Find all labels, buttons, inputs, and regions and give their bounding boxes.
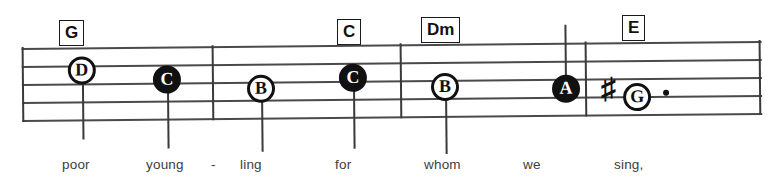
staff-line-3 [22, 77, 762, 86]
notehead-b-2: B [431, 73, 459, 101]
notehead-a-label: A [559, 79, 572, 97]
lyric-syllable-we: we [523, 157, 541, 172]
chord-symbol-dm: Dm [421, 17, 460, 43]
notehead-b-1-label: B [255, 79, 267, 97]
notehead-c-2: C [339, 64, 367, 92]
staff-start-barline [22, 47, 25, 122]
staff-line-2 [22, 59, 762, 68]
music-notation-sheet: G C Dm E D C B C [0, 0, 782, 183]
barline-1 [212, 45, 215, 120]
barline-3 [585, 42, 588, 117]
lyric-syllable-whom: whom [424, 157, 461, 172]
notehead-b-2-label: B [439, 77, 451, 95]
notehead-g-label: G [630, 87, 644, 105]
staff-line-5 [22, 113, 762, 122]
notehead-c-1: C [153, 65, 181, 93]
notehead-g: G [623, 83, 651, 111]
lyric-hyphen: - [211, 157, 216, 172]
notehead-a: A [552, 75, 580, 103]
augmentation-dot-icon [663, 90, 669, 96]
staff-end-barline [759, 40, 762, 115]
lyric-syllable-for: for [335, 157, 351, 172]
lyric-syllable-ling: ling [240, 157, 262, 172]
notehead-b-1: B [247, 75, 275, 103]
chord-symbol-c: C [337, 19, 361, 45]
lyric-syllable-sing: sing, [614, 157, 644, 172]
notehead-c-2-label: C [346, 68, 359, 86]
notehead-d-label: D [75, 60, 88, 78]
chord-symbol-g: G [59, 20, 84, 46]
barline-2 [400, 43, 403, 118]
chord-symbol-e: E [622, 15, 645, 41]
notehead-d: D [68, 56, 96, 84]
lyric-syllable-young: young [146, 157, 184, 172]
staff: D C B C B A ♯ G [22, 41, 763, 130]
notehead-c-1-label: C [160, 70, 173, 88]
sharp-icon: ♯ [601, 73, 616, 103]
lyric-syllable-poor: poor [62, 157, 90, 172]
staff-line-1 [22, 41, 762, 50]
